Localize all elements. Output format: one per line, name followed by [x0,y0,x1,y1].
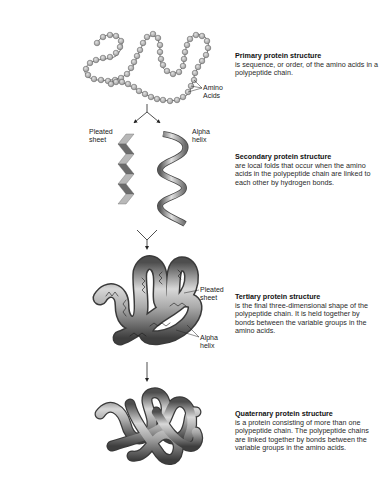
split-arrow [135,104,159,122]
label-line: sheet [89,136,106,143]
label-alpha-helix-secondary: Alpha helix [192,128,210,144]
primary-description: Primary protein structure is sequence, o… [235,52,380,78]
tertiary-description: Tertiary protein structure is the final … [235,293,380,336]
alpha-helix-graphic [160,134,185,224]
label-line: Acids [203,92,220,99]
label-line: Pleated [200,286,224,293]
quaternary-description: Quaternary protein structure is a protei… [235,410,380,453]
tertiary-folded-chain [100,263,195,338]
primary-text: is sequence, or order, of the amino acid… [235,60,378,78]
label-line: sheet [200,294,217,301]
secondary-text: are local folds that occur when the amin… [235,161,370,187]
primary-amino-acid-chain [83,31,211,104]
merge-arrow [137,230,157,248]
label-pleated-sheet-tertiary: Pleated sheet [200,286,224,302]
label-line: Alpha [200,334,218,341]
label-pleated-sheet-secondary: Pleated sheet [89,128,113,144]
quaternary-multi-chain [100,393,198,460]
label-line: helix [200,342,214,349]
label-line: helix [192,136,206,143]
quaternary-text: is a protein consisting of more than one… [235,418,369,453]
pleated-sheet-graphic [118,134,134,204]
label-amino-acids: Amino Acids [203,84,223,100]
label-line: Amino [203,84,223,91]
label-line: Alpha [192,128,210,135]
tertiary-text: is the final three-dimensional shape of … [235,301,368,336]
label-line: Pleated [89,128,113,135]
secondary-description: Secondary protein structure are local fo… [235,153,380,187]
label-alpha-helix-tertiary: Alpha helix [200,334,218,350]
